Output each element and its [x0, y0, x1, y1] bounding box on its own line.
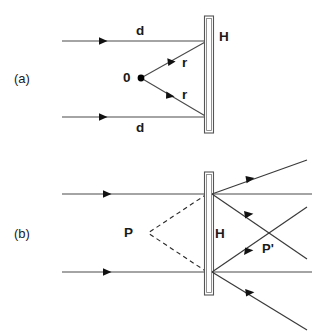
panel-b-lower-node-diverging-ray [212, 272, 307, 330]
panel-a-bottom-reference-arrowhead [99, 113, 108, 121]
panel-b: (b) P H P' [14, 160, 312, 330]
panel-a-lower-object-ray [141, 78, 207, 117]
panel-a-source-point-dot [138, 75, 145, 82]
panel-b-virtual-ray-lower [148, 233, 207, 272]
panel-b-holographic-plate [205, 172, 214, 295]
ray-diagram-svg: (a) H 0 d d r r [0, 0, 320, 335]
panel-b-real-image-label: P' [262, 241, 274, 256]
panel-a-upper-radius-label: r [182, 55, 188, 70]
panel-a-top-beam-label: d [136, 23, 144, 38]
panel-b-virtual-ray-upper [148, 194, 207, 233]
panel-a-top-reference-arrowhead [99, 37, 108, 45]
panel-a-upper-object-ray [141, 41, 207, 78]
panel-b-bottom-incident-arrowhead [103, 268, 112, 276]
panel-b-label: (b) [14, 226, 30, 241]
physics-figure: (a) H 0 d d r r [0, 0, 320, 335]
panel-b-lower-node-converging-ray [212, 207, 307, 272]
panel-b-plate-label: H [215, 226, 225, 241]
panel-a-bottom-beam-label: d [136, 120, 144, 135]
panel-b-upper-node-converging-arrowhead [244, 211, 253, 218]
panel-b-upper-node-converging-ray [212, 194, 307, 259]
panel-a-label: (a) [14, 71, 30, 86]
panel-a-source-label: 0 [123, 70, 131, 85]
panel-b-upper-node-diverging-ray [212, 160, 307, 194]
panel-b-top-incident-arrowhead [103, 190, 112, 198]
panel-a-lower-radius-label: r [182, 87, 188, 102]
panel-a-holographic-plate [205, 16, 214, 133]
panel-a-plate-label: H [219, 29, 229, 44]
panel-a: (a) H 0 d d r r [14, 16, 229, 135]
panel-b-virtual-image-label: P [124, 225, 133, 240]
panel-b-lower-node-converging-arrowhead [244, 248, 253, 255]
